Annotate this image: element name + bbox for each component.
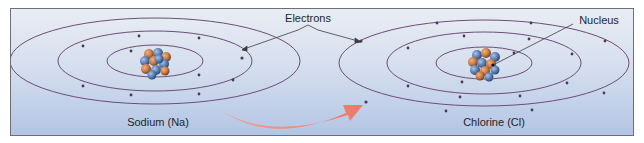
chlorine-label: Chlorine (Cl) bbox=[463, 116, 525, 128]
nucleus-label: Nucleus bbox=[579, 14, 619, 26]
transfer-arrow bbox=[221, 105, 363, 129]
electrons-leader-lines bbox=[242, 25, 361, 51]
chlorine-atom bbox=[339, 20, 629, 112]
electrons-label: Electrons bbox=[285, 12, 331, 24]
incoming-electron bbox=[364, 100, 367, 103]
atom-diagram bbox=[11, 9, 633, 135]
chlorine-nucleus bbox=[468, 48, 500, 82]
sodium-label: Sodium (Na) bbox=[127, 116, 189, 128]
sodium-nucleus bbox=[140, 48, 171, 80]
sodium-atom bbox=[11, 18, 300, 104]
diagram-frame: Electrons Nucleus Sodium (Na) Chlorine (… bbox=[10, 8, 634, 136]
